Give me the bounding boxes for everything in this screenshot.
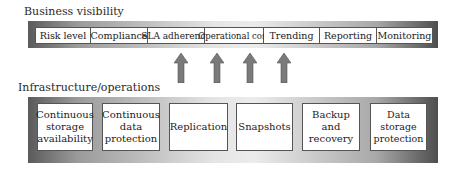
cell-sla-adherence: SLA adherence (148, 28, 205, 43)
box-continuous-data-protection: Continuousdataprotection (102, 103, 160, 151)
box-continuous-storage-availability: Continuousstorageavailability (37, 103, 93, 151)
box-text: Continuous (102, 109, 160, 120)
box-snapshots: Snapshots (236, 103, 293, 151)
box-text: data (120, 121, 142, 132)
box-text: Continuous (36, 109, 94, 120)
box-text: recovery (309, 133, 353, 144)
cell-risk-level: Risk level (36, 28, 91, 43)
box-text: Data storage (380, 109, 416, 132)
infrastructure-band: Continuousstorageavailability Continuous… (28, 97, 438, 163)
cell-compliance: Compliance (91, 28, 148, 43)
business-visibility-band: Risk level Compliance SLA adherence Oper… (28, 21, 438, 48)
box-text: availability (37, 133, 93, 144)
box-data-storage-protection: Data storageprotection (370, 103, 427, 151)
box-backup-and-recovery: Backup andrecovery (302, 103, 360, 151)
box-replication: Replication (169, 103, 228, 151)
box-text: storage (46, 121, 84, 132)
cell-reporting: Reporting (320, 28, 377, 43)
box-text: protection (374, 133, 424, 144)
up-arrow-icon (210, 53, 224, 83)
box-text: protection (105, 133, 157, 144)
business-metrics-row: Risk level Compliance SLA adherence Oper… (35, 27, 433, 44)
business-visibility-label: Business visibility (24, 5, 124, 18)
box-text: Backup and (312, 109, 350, 132)
up-arrow-icon (277, 53, 291, 83)
cell-operational-cost: Operational cost (205, 28, 264, 43)
infrastructure-operations-label: Infrastructure/operations (18, 81, 160, 94)
cell-monitoring: Monitoring (377, 28, 432, 43)
box-text: Snapshots (238, 121, 290, 132)
box-text: Replication (170, 121, 228, 132)
up-arrow-icon (174, 53, 188, 83)
up-arrow-icon (243, 53, 257, 83)
cell-trending: Trending (264, 28, 320, 43)
